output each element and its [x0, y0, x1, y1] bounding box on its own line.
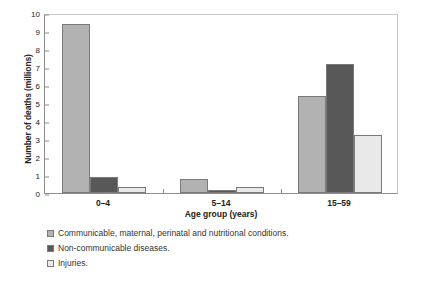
y-axis-tick-label: 7: [36, 65, 40, 73]
x-axis-group-label: 0–4: [96, 198, 110, 208]
y-axis-tick-mark: [45, 177, 49, 178]
y-axis-tick-label: 9: [36, 29, 40, 37]
y-axis-tick-label: 2: [36, 155, 40, 163]
bar: [90, 177, 118, 193]
y-axis-tick-mark: [45, 123, 49, 124]
legend-item-label: Injuries.: [58, 259, 88, 268]
y-axis-tick-label: 10: [31, 11, 40, 19]
x-axis-title: Age group (years): [44, 209, 398, 219]
y-axis-tick-mark: [45, 105, 49, 106]
bar: [62, 24, 90, 193]
plot-area: 012345678910: [44, 14, 398, 194]
x-axis-group-label: 5–14: [212, 198, 231, 208]
bar: [208, 190, 236, 193]
legend-swatch-icon: [47, 260, 54, 267]
bar: [180, 179, 208, 193]
y-axis-tick-label: 0: [36, 191, 40, 199]
legend-swatch-icon: [47, 230, 54, 237]
bar-chart-figure: Number of deaths (millions) 012345678910…: [0, 0, 426, 284]
y-axis-tick-mark: [45, 141, 49, 142]
legend-item: Injuries.: [47, 256, 407, 271]
bar: [326, 64, 354, 193]
y-axis-tick-mark: [45, 87, 49, 88]
y-axis-title: Number of deaths (millions): [23, 19, 33, 199]
y-axis-tick-mark: [45, 15, 49, 16]
x-axis-group-label: 15–59: [327, 198, 351, 208]
y-axis-tick-mark: [45, 159, 49, 160]
x-axis-tick-mark: [163, 189, 164, 193]
legend-swatch-icon: [47, 245, 54, 252]
y-axis-tick-label: 3: [36, 137, 40, 145]
y-axis-tick-label: 5: [36, 101, 40, 109]
legend-item: Communicable, maternal, perinatal and nu…: [47, 226, 407, 241]
legend-item-label: Non-communicable diseases.: [58, 244, 170, 253]
x-axis-tick-mark: [281, 189, 282, 193]
bar: [298, 96, 326, 193]
y-axis-tick-label: 4: [36, 119, 40, 127]
legend-item-label: Communicable, maternal, perinatal and nu…: [58, 229, 289, 238]
y-axis-tick-mark: [45, 69, 49, 70]
bar: [236, 187, 264, 193]
y-axis-tick-label: 6: [36, 83, 40, 91]
legend-item: Non-communicable diseases.: [47, 241, 407, 256]
y-axis-tick-mark: [45, 195, 49, 196]
bar: [354, 135, 382, 193]
y-axis-tick-label: 1: [36, 173, 40, 181]
chart-legend: Communicable, maternal, perinatal and nu…: [47, 226, 407, 271]
bar: [118, 187, 146, 193]
y-axis-tick-mark: [45, 33, 49, 34]
y-axis-tick-label: 8: [36, 47, 40, 55]
y-axis-tick-mark: [45, 51, 49, 52]
